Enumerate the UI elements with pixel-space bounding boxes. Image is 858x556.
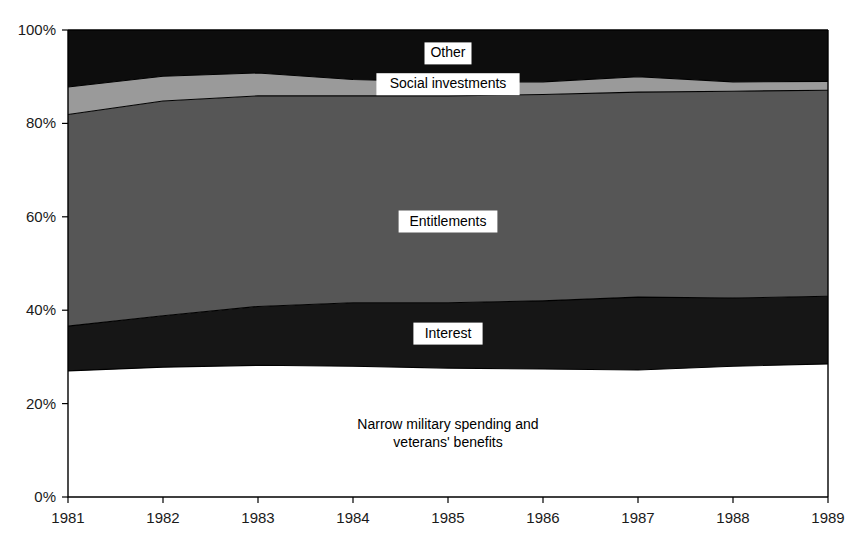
x-tick-label: 1982 <box>146 509 179 526</box>
series-label-line: veterans' benefits <box>393 434 502 450</box>
series-label: Interest <box>413 323 482 345</box>
x-tick-label: 1984 <box>336 509 369 526</box>
x-tick-label: 1989 <box>811 509 844 526</box>
x-tick-label: 1988 <box>716 509 749 526</box>
stacked-area-chart: 0%20%40%60%80%100% 198119821983198419851… <box>0 0 858 556</box>
area-band <box>68 90 828 326</box>
x-tick-label: 1987 <box>621 509 654 526</box>
series-label: Other <box>425 42 472 64</box>
x-tick-label: 1981 <box>51 509 84 526</box>
series-label-line: Narrow military spending and <box>357 416 538 432</box>
y-tick-label: 80% <box>26 114 56 131</box>
x-tick-label: 1983 <box>241 509 274 526</box>
y-tick-label: 60% <box>26 208 56 225</box>
x-tick-label: 1986 <box>526 509 559 526</box>
series-label: Social investments <box>376 73 519 95</box>
y-tick-label: 20% <box>26 395 56 412</box>
series-label-line: Other <box>430 44 465 60</box>
x-tick-label: 1985 <box>431 509 464 526</box>
series-label: Entitlements <box>399 211 498 233</box>
series-label-line: Social investments <box>390 75 507 91</box>
series-label-line: Interest <box>425 325 472 341</box>
y-tick-label: 0% <box>34 488 56 505</box>
series-label-line: Entitlements <box>409 213 486 229</box>
y-tick-label: 40% <box>26 301 56 318</box>
chart-canvas: 0%20%40%60%80%100% 198119821983198419851… <box>0 0 858 556</box>
y-tick-label: 100% <box>18 21 56 38</box>
